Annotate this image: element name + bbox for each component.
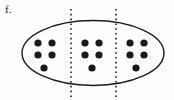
- dot: [34, 39, 41, 46]
- dot: [132, 64, 139, 71]
- dot: [126, 39, 133, 46]
- dot: [34, 51, 41, 58]
- dot: [48, 39, 55, 46]
- dot: [95, 51, 102, 58]
- partition-diagram-svg: [0, 0, 174, 100]
- dot: [140, 39, 147, 46]
- figure-container: f.: [0, 0, 174, 100]
- dot: [81, 51, 88, 58]
- dot-groups-layer: [34, 39, 147, 71]
- dot: [81, 39, 88, 46]
- dot: [40, 64, 47, 71]
- dot: [95, 39, 102, 46]
- left-group: [34, 39, 55, 71]
- dot: [88, 64, 95, 71]
- middle-group: [81, 39, 102, 71]
- right-group: [126, 39, 147, 71]
- divider-lines-layer: [71, 9, 116, 97]
- dot: [48, 51, 55, 58]
- dot: [140, 51, 147, 58]
- dot: [126, 51, 133, 58]
